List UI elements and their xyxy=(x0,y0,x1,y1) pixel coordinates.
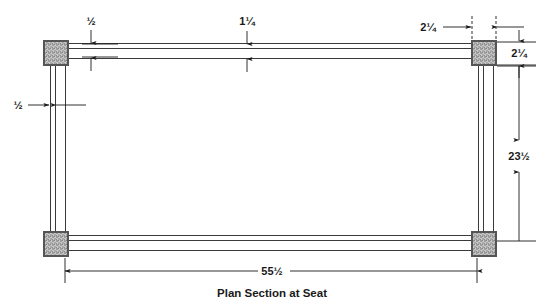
dimension-label-post-width: 2¼ xyxy=(420,21,436,33)
post-bottom-left xyxy=(44,232,68,256)
post-bottom-right xyxy=(472,232,496,256)
rail-right xyxy=(478,58,493,238)
post-top-right xyxy=(472,41,496,65)
post-top-left xyxy=(44,41,68,65)
dimension-label-top-rail-thickness: ½ xyxy=(86,15,95,27)
drawing-caption: Plan Section at Seat xyxy=(217,287,327,299)
dimension-label-mid-rail-width: 1¼ xyxy=(239,15,255,27)
dimension-label-side-rail-thickness: ½ xyxy=(13,99,22,111)
rail-bottom xyxy=(54,235,485,250)
drawing-canvas: ½ 1¼ 2¼ 2¼ ½ 23½ xyxy=(0,0,544,299)
dimension-label-post-depth: 2¼ xyxy=(511,47,527,59)
dimension-label-overall-depth: 23½ xyxy=(508,150,529,162)
dimension-label-overall-width: 55½ xyxy=(261,265,282,277)
rail-left xyxy=(50,58,65,238)
rail-top xyxy=(54,43,485,58)
plan-section-drawing: ½ 1¼ 2¼ 2¼ ½ 23½ xyxy=(0,0,544,299)
